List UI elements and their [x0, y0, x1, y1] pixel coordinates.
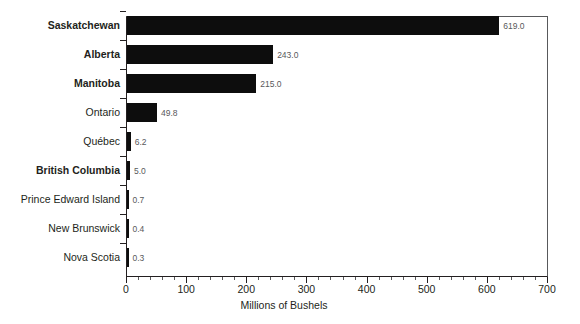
category-label: Prince Edward Island — [21, 190, 120, 209]
bar-chart: Saskatchewan619.0Alberta243.0Manitoba215… — [0, 0, 580, 324]
bar[interactable] — [127, 190, 129, 209]
bar[interactable] — [127, 45, 273, 64]
bar[interactable] — [127, 16, 499, 35]
x-axis-minor-tick — [475, 277, 476, 280]
x-axis-minor-tick — [294, 277, 295, 280]
y-axis-tick — [120, 11, 126, 12]
bar-value-label: 243.0 — [277, 45, 298, 64]
x-axis-minor-tick — [439, 277, 440, 280]
bar-value-label: 49.8 — [161, 103, 178, 122]
x-axis-minor-tick — [162, 277, 163, 280]
category-label: Québec — [83, 132, 120, 151]
x-axis-minor-tick — [234, 277, 235, 280]
bar-row[interactable]: Manitoba215.0 — [0, 74, 580, 103]
bar-row[interactable]: Ontario49.8 — [0, 103, 580, 132]
x-axis-minor-tick — [499, 277, 500, 280]
x-axis-minor-tick — [222, 277, 223, 280]
x-axis-title: Millions of Bushels — [0, 299, 580, 311]
x-axis-minor-tick — [451, 277, 452, 280]
x-axis-minor-tick — [379, 277, 380, 280]
x-axis-minor-tick — [174, 277, 175, 280]
y-axis-tick — [120, 156, 126, 157]
x-axis-tick-label: 400 — [337, 283, 397, 295]
x-axis-minor-tick — [282, 277, 283, 280]
bar-row[interactable]: Alberta243.0 — [0, 45, 580, 74]
bar[interactable] — [127, 161, 130, 180]
bar-value-label: 0.3 — [133, 248, 145, 267]
y-axis-tick — [120, 214, 126, 215]
x-axis-title-text: Millions of Bushels — [241, 299, 328, 311]
bar-row[interactable]: New Brunswick0.4 — [0, 219, 580, 248]
x-axis-minor-tick — [150, 277, 151, 280]
x-axis-minor-tick — [198, 277, 199, 280]
bar-row[interactable]: British Columbia5.0 — [0, 161, 580, 190]
y-axis-tick — [120, 243, 126, 244]
x-axis-minor-tick — [138, 277, 139, 280]
x-axis-minor-tick — [258, 277, 259, 280]
bar-value-label: 0.4 — [133, 219, 145, 238]
x-axis-tick-label: 500 — [397, 283, 457, 295]
bar-row[interactable]: Saskatchewan619.0 — [0, 16, 580, 45]
x-axis-minor-tick — [403, 277, 404, 280]
x-axis-minor-tick — [415, 277, 416, 280]
x-axis-minor-tick — [523, 277, 524, 280]
bar[interactable] — [127, 132, 131, 151]
x-axis-tick-label: 700 — [517, 283, 577, 295]
bar[interactable] — [127, 219, 129, 238]
bar-value-label: 5.0 — [134, 161, 146, 180]
x-axis-minor-tick — [270, 277, 271, 280]
x-axis-tick-label: 100 — [156, 283, 216, 295]
x-axis-tick-label: 200 — [216, 283, 276, 295]
bar-value-label: 215.0 — [260, 74, 281, 93]
x-axis — [126, 277, 548, 278]
bar-row[interactable]: Prince Edward Island0.7 — [0, 190, 580, 219]
x-axis-minor-tick — [535, 277, 536, 280]
x-axis-minor-tick — [511, 277, 512, 280]
x-axis-minor-tick — [391, 277, 392, 280]
category-label: New Brunswick — [48, 219, 120, 238]
x-axis-minor-tick — [343, 277, 344, 280]
category-label: British Columbia — [36, 161, 120, 180]
y-axis-tick — [120, 69, 126, 70]
bar[interactable] — [127, 74, 256, 93]
x-axis-minor-tick — [463, 277, 464, 280]
bar-value-label: 6.2 — [135, 132, 147, 151]
bar-value-label: 619.0 — [503, 16, 524, 35]
x-axis-tick-label: 300 — [276, 283, 336, 295]
x-axis-tick-label: 0 — [96, 283, 156, 295]
bar-value-label: 0.7 — [133, 190, 145, 209]
category-label: Ontario — [86, 103, 120, 122]
x-axis-minor-tick — [355, 277, 356, 280]
bar-row[interactable]: Québec6.2 — [0, 132, 580, 161]
category-label: Nova Scotia — [63, 248, 120, 267]
bar[interactable] — [127, 103, 157, 122]
x-axis-minor-tick — [318, 277, 319, 280]
bar-rows: Saskatchewan619.0Alberta243.0Manitoba215… — [0, 16, 580, 277]
x-axis-minor-tick — [330, 277, 331, 280]
category-label: Manitoba — [74, 74, 120, 93]
bar-row[interactable]: Nova Scotia0.3 — [0, 248, 580, 277]
bar[interactable] — [127, 248, 129, 267]
x-axis-minor-tick — [210, 277, 211, 280]
x-axis-tick-label: 600 — [457, 283, 517, 295]
y-axis-tick — [120, 185, 126, 186]
category-label: Saskatchewan — [48, 16, 120, 35]
y-axis-tick — [120, 98, 126, 99]
y-axis-tick — [120, 127, 126, 128]
y-axis-tick — [120, 40, 126, 41]
category-label: Alberta — [84, 45, 120, 64]
